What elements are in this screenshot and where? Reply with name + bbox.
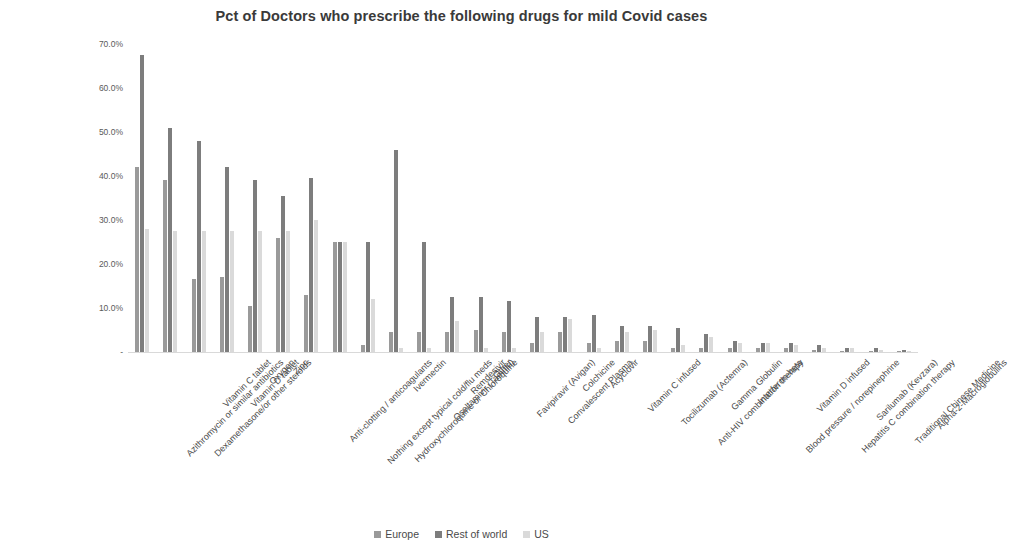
bar-rest-of-world xyxy=(648,326,652,352)
bar-group xyxy=(636,40,664,352)
bar-group xyxy=(862,40,890,352)
legend-item[interactable]: Europe xyxy=(374,528,419,540)
bar-us xyxy=(766,343,770,352)
bar-rest-of-world xyxy=(620,326,624,352)
bar-rest-of-world xyxy=(507,301,511,352)
bar-group xyxy=(805,40,833,352)
bar-group xyxy=(128,40,156,352)
bar-europe xyxy=(474,330,478,352)
bar-rest-of-world xyxy=(761,343,765,352)
bar-rest-of-world xyxy=(366,242,370,352)
bar-us xyxy=(794,345,798,352)
bar-group xyxy=(438,40,466,352)
bar-group xyxy=(269,40,297,352)
legend-label: Europe xyxy=(385,528,419,540)
bar-rest-of-world xyxy=(394,150,398,352)
bar-rest-of-world xyxy=(197,141,201,352)
legend-label: Rest of world xyxy=(446,528,507,540)
bar-us xyxy=(314,220,318,352)
bar-group xyxy=(777,40,805,352)
bar-europe xyxy=(502,332,506,352)
bar-europe xyxy=(587,343,591,352)
x-axis-labels: Azithromycin or similar antibioticsDexam… xyxy=(0,352,923,512)
bar-us xyxy=(145,229,149,352)
bar-rest-of-world xyxy=(253,180,257,352)
legend-label: US xyxy=(534,528,549,540)
x-axis-tick-label: Hepatitis C combination therapy xyxy=(861,358,958,455)
bar-europe xyxy=(135,167,139,352)
plot-area xyxy=(128,40,918,352)
x-axis-tick-label: Vitamin D infused xyxy=(816,358,872,414)
y-axis-tick: 70.0% xyxy=(99,40,123,49)
bar-group xyxy=(382,40,410,352)
bar-group xyxy=(608,40,636,352)
bar-rest-of-world xyxy=(676,328,680,352)
bar-rest-of-world xyxy=(225,167,229,352)
bar-group xyxy=(184,40,212,352)
bar-group xyxy=(890,40,918,352)
bar-us xyxy=(258,231,262,352)
bar-europe xyxy=(417,332,421,352)
bar-us xyxy=(202,231,206,352)
bar-us xyxy=(568,319,572,352)
bar-us xyxy=(371,299,375,352)
bar-rest-of-world xyxy=(704,334,708,352)
bar-us xyxy=(455,321,459,352)
bar-europe xyxy=(615,341,619,352)
bar-group xyxy=(467,40,495,352)
y-axis-tick: 40.0% xyxy=(99,172,123,181)
bar-group xyxy=(749,40,777,352)
bar-us xyxy=(540,332,544,352)
chart-legend: EuropeRest of worldUS xyxy=(0,528,923,540)
x-axis-tick-label: Azithromycin or similar antibiotics xyxy=(185,358,285,458)
bar-group xyxy=(156,40,184,352)
bar-group xyxy=(354,40,382,352)
legend-item[interactable]: Rest of world xyxy=(435,528,507,540)
bar-europe xyxy=(304,295,308,352)
bar-rest-of-world xyxy=(422,242,426,352)
bar-us xyxy=(653,330,657,352)
bar-us xyxy=(681,345,685,352)
bar-us xyxy=(173,231,177,352)
bar-us xyxy=(709,337,713,352)
legend-swatch-icon xyxy=(523,531,530,538)
bar-rest-of-world xyxy=(309,178,313,352)
bar-rest-of-world xyxy=(535,317,539,352)
y-axis-tick: 30.0% xyxy=(99,216,123,225)
legend-swatch-icon xyxy=(374,531,381,538)
bar-rest-of-world xyxy=(281,196,285,352)
bar-group xyxy=(495,40,523,352)
bar-us xyxy=(343,242,347,352)
bar-rest-of-world xyxy=(479,297,483,352)
legend-swatch-icon xyxy=(435,531,442,538)
bar-europe xyxy=(389,332,393,352)
bar-europe xyxy=(530,343,534,352)
bar-rest-of-world xyxy=(563,317,567,352)
y-axis-tick: 50.0% xyxy=(99,128,123,137)
bar-rest-of-world xyxy=(733,341,737,352)
bar-europe xyxy=(248,306,252,352)
bar-europe xyxy=(192,279,196,352)
bar-europe xyxy=(163,180,167,352)
bar-rest-of-world xyxy=(592,315,596,352)
legend-item[interactable]: US xyxy=(523,528,549,540)
bar-rest-of-world xyxy=(140,55,144,352)
bar-group xyxy=(241,40,269,352)
y-axis-tick: 60.0% xyxy=(99,84,123,93)
bar-us xyxy=(738,343,742,352)
bar-group xyxy=(326,40,354,352)
bar-europe xyxy=(333,242,337,352)
bar-europe xyxy=(361,345,365,352)
bar-group xyxy=(721,40,749,352)
bar-europe xyxy=(643,341,647,352)
bar-rest-of-world xyxy=(789,343,793,352)
x-axis-tick-label: Nothing except typical cold/flu meds xyxy=(386,358,494,466)
bar-europe xyxy=(558,332,562,352)
y-axis: 70.0%60.0%50.0%40.0%30.0%20.0%10.0%- xyxy=(78,36,126,356)
bar-rest-of-world xyxy=(450,297,454,352)
bar-us xyxy=(286,231,290,352)
bar-group xyxy=(551,40,579,352)
bar-rest-of-world xyxy=(817,345,821,352)
bar-group xyxy=(410,40,438,352)
bar-group xyxy=(579,40,607,352)
